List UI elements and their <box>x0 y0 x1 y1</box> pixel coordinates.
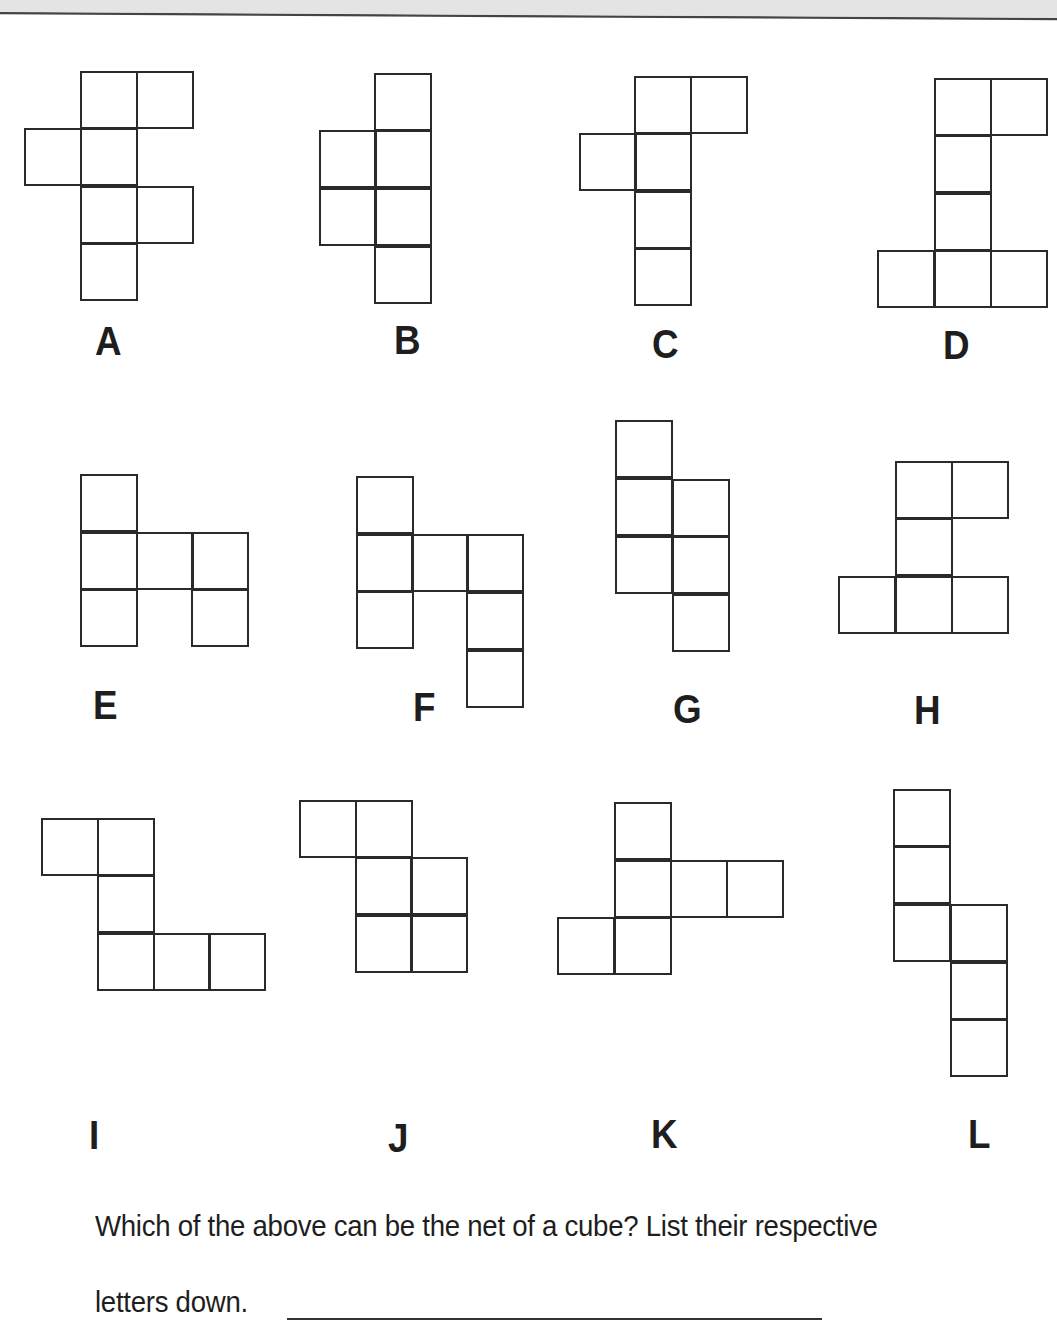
net-square <box>635 192 691 248</box>
net-square <box>615 918 671 974</box>
net-b <box>320 74 431 303</box>
net-square <box>375 131 431 187</box>
net-square <box>42 819 98 875</box>
net-square <box>192 590 248 646</box>
net-f <box>357 477 523 707</box>
net-square <box>357 535 413 591</box>
net-square <box>209 934 265 990</box>
net-square <box>81 72 137 128</box>
net-square <box>192 533 248 589</box>
net-square <box>356 858 412 914</box>
net-label-i: I <box>89 1115 99 1155</box>
net-square <box>673 595 729 651</box>
net-square <box>951 905 1007 961</box>
net-i <box>42 819 265 990</box>
answer-input[interactable] <box>287 1284 822 1317</box>
net-square <box>137 533 193 589</box>
net-square <box>81 475 137 531</box>
net-square <box>357 592 413 648</box>
net-h <box>839 462 1008 633</box>
question-text-line2: letters down. <box>95 1287 248 1317</box>
net-square <box>356 916 412 972</box>
net-square <box>671 861 727 917</box>
net-square <box>896 519 952 575</box>
net-square <box>81 244 137 300</box>
net-square <box>320 189 376 245</box>
net-square <box>952 577 1008 633</box>
net-square <box>839 577 895 633</box>
net-c <box>580 77 747 305</box>
net-label-a: A <box>95 321 122 361</box>
net-square <box>375 189 431 245</box>
net-square <box>878 251 934 307</box>
net-square <box>935 136 991 192</box>
net-label-h: H <box>914 690 941 730</box>
net-square <box>896 462 952 518</box>
net-square <box>81 590 137 646</box>
net-square <box>894 790 950 846</box>
net-square <box>952 462 1008 518</box>
net-l <box>894 790 1007 1076</box>
net-square <box>935 251 991 307</box>
net-square <box>357 477 413 533</box>
net-square <box>412 535 468 591</box>
net-label-l: L <box>968 1114 990 1154</box>
net-square <box>375 247 431 303</box>
cube-nets-figure <box>0 0 1057 1325</box>
net-square <box>894 905 950 961</box>
net-a <box>25 72 193 300</box>
net-square <box>991 251 1047 307</box>
net-label-b: B <box>394 320 421 360</box>
net-square <box>81 129 137 185</box>
net-square <box>81 533 137 589</box>
net-label-f: F <box>413 687 435 727</box>
net-square <box>137 72 193 128</box>
net-label-e: E <box>93 685 118 725</box>
net-square <box>375 74 431 130</box>
net-square <box>951 963 1007 1019</box>
net-square <box>951 1020 1007 1076</box>
net-label-d: D <box>943 325 970 365</box>
net-square <box>467 535 523 591</box>
net-square <box>300 801 356 857</box>
net-square <box>616 421 672 477</box>
net-square <box>616 479 672 535</box>
net-square <box>137 187 193 243</box>
net-square <box>616 537 672 593</box>
net-square <box>411 858 467 914</box>
net-square <box>991 79 1047 135</box>
net-square <box>25 129 81 185</box>
net-square <box>558 918 614 974</box>
net-square <box>615 803 671 859</box>
net-label-c: C <box>652 324 679 364</box>
net-square <box>615 861 671 917</box>
net-label-g: G <box>673 689 702 729</box>
net-square <box>98 819 154 875</box>
net-square <box>635 134 691 190</box>
net-square <box>467 593 523 649</box>
net-label-j: J <box>388 1118 408 1158</box>
net-square <box>98 934 154 990</box>
net-square <box>894 847 950 903</box>
net-square <box>81 187 137 243</box>
net-square <box>935 194 991 250</box>
net-square <box>673 537 729 593</box>
net-square <box>935 79 991 135</box>
question-text-line1: Which of the above can be the net of a c… <box>95 1211 878 1241</box>
net-j <box>300 801 467 972</box>
net-e <box>81 475 248 646</box>
net-k <box>558 803 783 974</box>
net-d <box>878 79 1047 307</box>
net-square <box>467 651 523 707</box>
net-square <box>635 249 691 305</box>
net-square <box>896 577 952 633</box>
net-label-k: K <box>651 1114 678 1154</box>
net-square <box>154 934 210 990</box>
net-square <box>691 77 747 133</box>
net-square <box>673 480 729 536</box>
net-square <box>580 134 636 190</box>
net-square <box>411 916 467 972</box>
net-square <box>635 77 691 133</box>
net-square <box>356 801 412 857</box>
net-square <box>98 876 154 932</box>
